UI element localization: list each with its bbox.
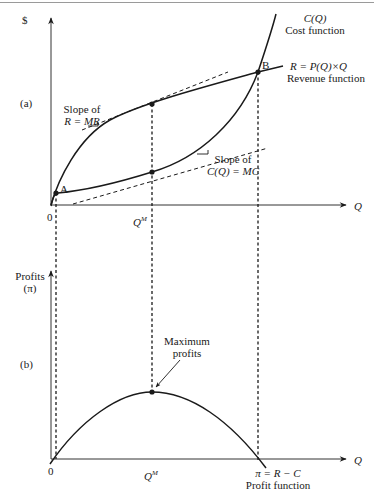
point-revenue-qm-dot <box>149 101 154 106</box>
panel-b-axes <box>51 271 346 459</box>
panel-b-label: (b) <box>20 358 33 370</box>
profits-axis-label: Profits (π) <box>10 270 50 294</box>
x-axis-label-q-b: Q <box>354 454 362 466</box>
qm-label-b: QM <box>144 467 158 482</box>
profits-axis-label-line1: Profits <box>10 270 50 282</box>
max-profits-label: Maximum profits <box>162 335 212 359</box>
point-a-label: A <box>60 183 68 195</box>
profit-function-desc: Profit function <box>238 479 318 491</box>
origin-label-b: 0 <box>48 465 54 477</box>
point-cost-qm-dot <box>149 169 154 174</box>
slope-mr-line1: Slope of <box>60 103 104 115</box>
cost-function-label: C(Q) Cost function <box>280 12 350 36</box>
slope-markers <box>88 122 208 154</box>
qm-label-b-sup: M <box>152 469 158 477</box>
qm-label-a: QM <box>133 213 147 228</box>
slope-mr-label: Slope of R = MR <box>60 103 104 127</box>
revenue-function-name: R = P(Q)×Q <box>290 60 365 72</box>
qm-label-a-base: Q <box>133 216 141 228</box>
max-profits-line1: Maximum <box>162 335 212 347</box>
tangent-lines <box>73 72 268 204</box>
revenue-function-desc: Revenue function <box>287 72 365 84</box>
panel-a-label: (a) <box>20 97 32 109</box>
slope-mr-line2: R = MR <box>60 115 104 127</box>
point-b-label: B <box>262 59 269 71</box>
qm-label-b-base: Q <box>144 470 152 482</box>
point-b-dot <box>255 69 260 74</box>
slope-mc-line1: Slope of <box>203 153 263 165</box>
dashed-verticals <box>56 72 258 462</box>
profit-curve <box>50 392 266 468</box>
cost-function-desc: Cost function <box>280 24 350 36</box>
max-profit-dot <box>149 389 154 394</box>
revenue-function-label: R = P(Q)×Q Revenue function <box>290 60 365 84</box>
profit-function-name: π = R − C <box>238 467 318 479</box>
origin-label-a: 0 <box>47 211 53 223</box>
qm-label-a-sup: M <box>141 215 147 223</box>
slope-mc-label: Slope of C(Q) = MC <box>203 153 263 177</box>
revenue-curve <box>51 66 283 205</box>
x-axis-label-q-a: Q <box>354 200 362 212</box>
profit-function-label: π = R − C Profit function <box>238 467 318 491</box>
cost-function-name: C(Q) <box>280 12 350 24</box>
slope-mc-line2: C(Q) = MC <box>203 165 263 177</box>
max-profits-line2: profits <box>162 347 212 359</box>
point-a-dot <box>53 190 58 195</box>
max-profit-arrow <box>156 360 180 387</box>
profits-axis-label-line2: (π) <box>10 282 50 294</box>
dollar-axis-label: $ <box>22 14 28 26</box>
